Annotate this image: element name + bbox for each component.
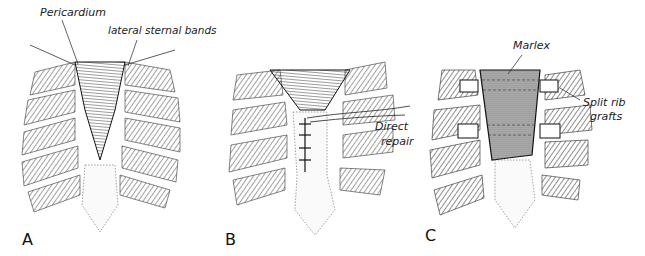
label-direct: Direct [375,121,408,132]
panel-c: Marlex Split rib grafts C [420,0,645,256]
label-grafts: grafts [590,111,622,122]
label-split-rib: Split rib [583,97,625,108]
label-lateral-sternal-bands: lateral sternal bands [108,25,217,36]
label-marlex: Marlex [513,40,550,51]
panel-b: Direct repair B [215,0,430,256]
label-pericardium: Pericardium [40,7,106,18]
panel-letter-c: C [425,228,436,244]
panel-letter-b: B [225,232,236,248]
chest-wall-illustration-a [0,0,215,256]
label-repair: repair [381,136,414,147]
panel-a: Pericardium lateral sternal bands A [0,0,215,256]
panel-letter-a: A [22,232,33,248]
